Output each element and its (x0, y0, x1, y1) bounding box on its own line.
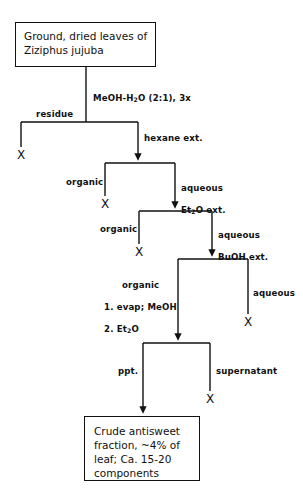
edge-label-aqueous-et2o-line2-pre: Et (181, 205, 191, 215)
node-product-line1: Crude antisweet (94, 424, 199, 438)
edge-label-organic-2: organic (100, 224, 137, 235)
edge-label-supernatant: supernatant (216, 366, 277, 377)
edge-label-aqueous-et2o-line1: aqueous (181, 183, 223, 193)
flowchart-page: Ground, dried leaves of Ziziphus jujuba … (0, 0, 303, 496)
terminal-x-aqueous-3: X (244, 316, 252, 328)
edge-label-aqueous-buoh-line1: aqueous (218, 230, 260, 240)
node-product-line3: leaf; Ca. 15-20 (94, 452, 199, 466)
node-product-line2: fraction, ~4% of (94, 438, 199, 452)
edge-label-hexane-ext: hexane ext. (144, 133, 203, 144)
edge-label-aqueous-buoh-ext: aqueous BuOH ext. (218, 219, 268, 263)
terminal-x-organic-2: X (135, 246, 143, 258)
edge-label-extraction-solvent-post: O (2:1), 3x (138, 93, 191, 103)
edge-label-ppt: ppt. (118, 366, 138, 377)
node-start-material-line2: Ziziphus jujuba (24, 43, 155, 57)
edge-label-organic-3-line3-post: O (131, 324, 138, 334)
edge-label-organic-3-line1: organic (104, 280, 177, 291)
terminal-x-organic-1: X (101, 198, 109, 210)
node-crude-antisweet-fraction: Crude antisweet fraction, ~4% of leaf; C… (84, 416, 200, 481)
edge-label-organic-3-line2: 1. evap; MeOH (104, 302, 177, 313)
edge-label-organic-1: organic (66, 177, 103, 188)
terminal-x-residue: X (17, 149, 25, 161)
edge-label-extraction-solvent: MeOH-H2O (2:1), 3x (93, 82, 191, 105)
node-start-material: Ground, dried leaves of Ziziphus jujuba (15, 22, 156, 67)
edge-label-aqueous-et2o-line2-post: O ext. (196, 205, 226, 215)
node-product-line4: components (94, 466, 199, 480)
node-start-material-line1: Ground, dried leaves of (24, 29, 155, 43)
edge-label-extraction-solvent-pre: MeOH-H (93, 93, 134, 103)
edge-label-residue: residue (36, 109, 73, 120)
edge-label-organic-3: organic 1. evap; MeOH 2. Et2O (104, 269, 177, 347)
edge-label-aqueous-buoh-line2: BuOH ext. (218, 252, 268, 262)
edge-label-aqueous-et2o-ext: aqueous Et2O ext. (181, 172, 226, 217)
terminal-x-supernatant: X (206, 393, 214, 405)
edge-label-organic-3-line3: 2. Et2O (104, 324, 177, 336)
edge-label-organic-3-line3-pre: 2. Et (104, 324, 127, 334)
edge-label-aqueous-3: aqueous (253, 288, 295, 299)
